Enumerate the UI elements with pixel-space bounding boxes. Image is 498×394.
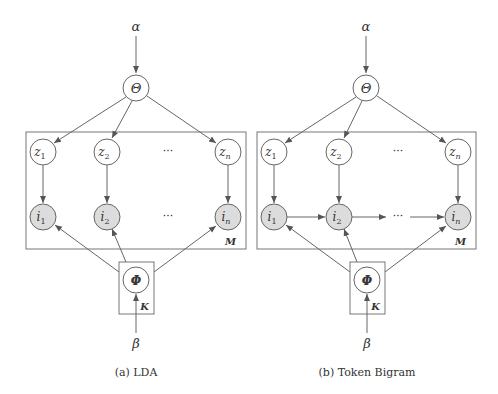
- i-node-1: i1: [261, 204, 287, 230]
- beta-label: β: [362, 336, 371, 351]
- phi-to-i2-edge: [112, 229, 126, 262]
- theta-label: Θ: [131, 81, 142, 96]
- z-node-2: z2: [326, 139, 352, 165]
- z-node-n: zn: [445, 139, 471, 165]
- theta-to-zn-edge: [377, 96, 446, 143]
- phi-label: Φ: [131, 274, 142, 288]
- i-node-2: i2: [94, 204, 120, 230]
- z-node-2: z2: [94, 139, 120, 165]
- i-node-1: i1: [30, 204, 56, 230]
- i-ellipsis: ···: [163, 210, 174, 223]
- alpha-label: α: [132, 19, 141, 34]
- caption-token-bigram: (b) Token Bigram: [319, 366, 416, 379]
- z-node-n: zn: [215, 139, 241, 165]
- phi-label: Φ: [362, 274, 373, 288]
- diagram-canvas: α Θ M z1 z2 ··· zn i1: [0, 0, 498, 394]
- plate-m: [26, 132, 246, 249]
- plate-m-label: M: [454, 236, 467, 247]
- i-node-n: in: [215, 204, 241, 230]
- theta-to-z1-edge: [54, 97, 126, 143]
- caption-lda: (a) LDA: [115, 366, 159, 379]
- i-node-n: in: [445, 204, 471, 230]
- plate-k-label: K: [370, 301, 381, 312]
- theta-to-zn-edge: [147, 96, 216, 143]
- beta-label: β: [131, 336, 140, 351]
- plate-k-label: K: [139, 301, 150, 312]
- z-node-1: z1: [261, 139, 287, 165]
- plate-m-label: M: [224, 236, 237, 247]
- i-node-2: i2: [326, 204, 352, 230]
- i-ellipsis: ···: [393, 210, 404, 223]
- plate-m: [257, 132, 476, 249]
- panel-token-bigram: α Θ M z1 z2 ··· zn i1 i2: [257, 19, 476, 379]
- z-ellipsis: ···: [163, 145, 174, 158]
- alpha-label: α: [362, 19, 371, 34]
- z-node-1: z1: [30, 139, 56, 165]
- theta-label: Θ: [361, 81, 372, 96]
- panel-lda: α Θ M z1 z2 ··· zn i1: [26, 19, 246, 379]
- phi-to-i2-edge: [344, 229, 357, 262]
- z-ellipsis: ···: [393, 145, 404, 158]
